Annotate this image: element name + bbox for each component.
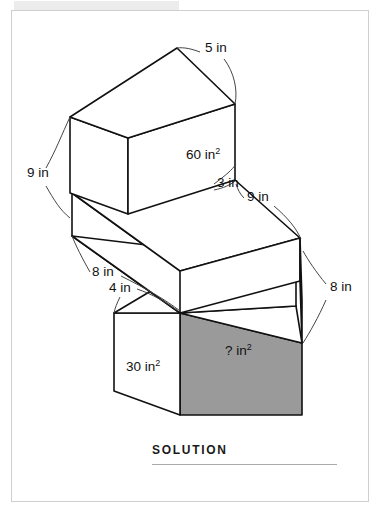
solution-section: SOLUTION xyxy=(152,442,340,465)
leader-top-height-a xyxy=(46,117,70,168)
leader-top-height-b xyxy=(46,186,70,218)
solution-divider xyxy=(152,464,337,465)
dimension-label-top-height: 9 in xyxy=(27,165,49,180)
face-area-label-left: 30 in2 xyxy=(126,358,160,374)
dimension-label-middle-length: 8 in xyxy=(92,264,114,279)
dimension-label-bottom-height: 8 in xyxy=(330,279,352,294)
composite-solid-figure: 5 in 9 in 3 in 9 in 8 in 4 in 8 in 60 in… xyxy=(0,0,385,508)
figure-page: 5 in 9 in 3 in 9 in 8 in 4 in 8 in 60 in… xyxy=(0,0,385,508)
face-area-label-top: 60 in2 xyxy=(186,146,220,162)
middle-slab-right-side-face xyxy=(300,238,302,343)
dimension-label-top-length: 5 in xyxy=(205,40,227,55)
solution-heading: SOLUTION xyxy=(152,442,340,458)
dimension-label-middle-depth: 9 in xyxy=(247,189,269,204)
leader-bottom-height-b xyxy=(303,300,326,343)
dimension-label-middle-height: 3 in xyxy=(217,175,239,190)
leader-bottom-height-a xyxy=(303,251,326,284)
dimension-label-bottom-depth: 4 in xyxy=(109,280,131,295)
